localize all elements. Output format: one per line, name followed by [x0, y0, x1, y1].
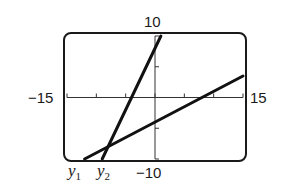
axes	[67, 36, 243, 159]
legend-y1: y1	[68, 163, 81, 184]
ymax-label: 10	[144, 14, 161, 29]
legend-y2: y2	[97, 163, 110, 184]
xmax-label: 15	[250, 90, 267, 105]
ymin-label: −10	[136, 165, 161, 180]
xmin-label: −15	[28, 90, 53, 105]
